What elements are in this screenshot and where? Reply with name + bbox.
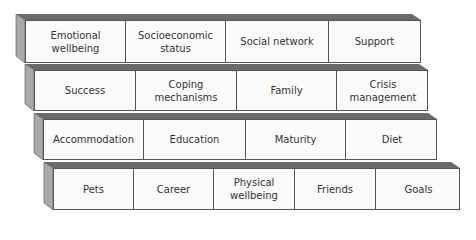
block-row-3: Accommodation Education Maturity Diet [43,119,437,160]
block-emotional-wellbeing: Emotional wellbeing [26,21,126,62]
block-coping-mechanisms: Coping mechanisms [136,71,237,110]
block-education: Education [144,120,246,159]
block-family: Family [237,71,337,110]
block-physical-wellbeing: Physical wellbeing [214,169,295,209]
block-maturity: Maturity [246,120,346,159]
block-support: Support [329,21,420,62]
block-career: Career [134,169,214,209]
block-socioeconomic-status: Socioeconomic status [126,21,226,62]
block-crisis-management: Crisis management [337,71,429,110]
block-row-1: Emotional wellbeing Socioeconomic status… [25,20,421,63]
block-accommodation: Accommodation [44,120,144,159]
block-row-2: Success Coping mechanisms Family Crisis … [34,70,428,111]
block-social-network: Social network [226,21,329,62]
block-row-4: Pets Career Physical wellbeing Friends G… [53,168,460,210]
block-success: Success [35,71,136,110]
block-goals: Goals [376,169,461,209]
block-diet: Diet [346,120,438,159]
block-pets: Pets [54,169,134,209]
block-friends: Friends [295,169,376,209]
